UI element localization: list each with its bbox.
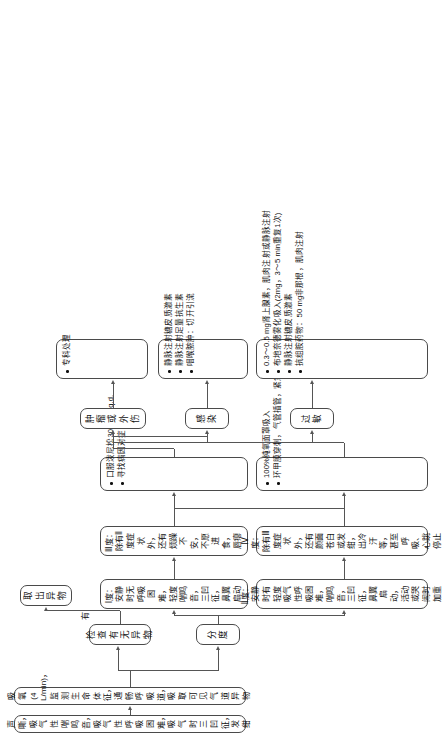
arrow-checkfb-to-remove: [44, 607, 48, 611]
arrow-initial-to-grading: [216, 646, 220, 650]
edge-initial-to-checkfb: [118, 650, 119, 671]
node-check-foreign-body: 检查有无异物: [89, 624, 151, 645]
arrow-bus-to-infection: [205, 430, 209, 434]
node-grade-4-label: Ⅳ度：除有Ⅲ度症状外，还有颜面苍白或发绀，出冷汗等，甚至呼吸、心跳停止: [241, 530, 444, 552]
arrow-grade1-to-grade3: [172, 557, 176, 561]
node-cause-allergy-label: 过敏: [301, 412, 324, 425]
edge-allergy-to-treatment: [312, 384, 313, 408]
edge-infection-to-treatment: [207, 384, 208, 408]
treatment-infection-item-0: 静脉注射糖皮质激素: [164, 293, 173, 374]
treatment-allergy-item-3: 抗组胺药物：50 mg非那根，肌肉注射: [295, 231, 304, 374]
edge-initial-split-vert: [118, 670, 218, 671]
treatment-specialist-item-0: 专科处理: [62, 334, 71, 374]
node-grade-3-label: Ⅲ度：除有Ⅱ度症状外，还有烦躁不安，不愿进食，唇瘪: [105, 530, 244, 552]
edge-severe-join: [174, 508, 344, 509]
edge-cause-bus-c: [113, 436, 207, 437]
edge-cause-bus-a: [113, 448, 174, 449]
arrow-join-to-severe: [342, 492, 346, 496]
node-grading: 分度: [196, 624, 240, 645]
edge-severe-to-causes: [344, 443, 345, 457]
arrow-bus-to-allergy: [310, 430, 314, 434]
node-treatment-allergy: 0.3～0.5 mg肾上腺素，肌肉注射或静脉注射 布地奈德雾化吸入(2mg，3～…: [256, 339, 428, 379]
node-treatment-mild: 口服泼尼松30 mg，q.d. 寻找病因对症治疗: [100, 457, 248, 491]
treatment-infection-item-1: 静脉注射足量抗生素: [175, 293, 184, 374]
arrow-initial-to-checkfb: [116, 646, 120, 650]
arrow-grade2-to-grade4: [342, 557, 346, 561]
edge-grade4-to-join: [344, 509, 345, 526]
diagram-root: 声嘶，吸气性喘鸣音，吸气性呼吸困难，吸气时三凹征，发绀 吸氧(4 L/min)，…: [0, 0, 445, 739]
arrow-grading-to-grade2: [342, 610, 346, 614]
edge-join-to-severe: [344, 496, 345, 509]
node-grading-label: 分度: [207, 628, 230, 641]
edge-grade1-to-mild: [174, 496, 175, 526]
node-grade-1: Ⅰ度：安静时无呼吸困难，轻度喘鸣音，三凹征，鼻翼扇动: [100, 579, 248, 609]
node-initial-care: 吸氧(4 L/min)，监测生命体征，通畅呼吸道，吸取可见气道异物: [14, 687, 246, 705]
edge-tumor-to-treatment: [113, 384, 114, 408]
edge-grading-out: [218, 616, 219, 624]
edge-checkfb-out: [120, 611, 121, 624]
node-grade-4: Ⅳ度：除有Ⅲ度症状外，还有颜面苍白或发绀，出冷汗等，甚至呼吸、心跳停止: [256, 526, 428, 556]
edge-bus-to-infection: [207, 434, 208, 443]
node-treatment-severe: 100%纯氧面罩吸入 环甲膜穿刺，气管插管，紧急气管切开: [256, 457, 428, 491]
edge-initial-split-stem: [130, 671, 131, 687]
node-cause-tumor-trauma-label: 肿瘤或外伤: [85, 412, 142, 425]
edge-bus-to-allergy: [312, 434, 313, 443]
treatment-infection-item-2: 咽喉脓肿：切开引流: [186, 293, 195, 374]
node-initial-care-label: 吸氧(4 L/min)，监测生命体征，通畅呼吸道，吸取可见气道异物: [7, 691, 252, 701]
flowchart-canvas: 声嘶，吸气性喘鸣音，吸气性呼吸困难，吸气时三凹征，发绀 吸氧(4 L/min)，…: [0, 0, 445, 739]
node-cause-tumor-trauma: 肿瘤或外伤: [80, 408, 146, 429]
arrow-grade1-to-mild: [172, 492, 176, 496]
arrow-symptoms-to-initial: [128, 706, 132, 710]
treatment-allergy-item-0: 0.3～0.5 mg肾上腺素，肌肉注射或静脉注射: [262, 210, 271, 374]
arrow-tumor-to-treatment: [111, 380, 115, 384]
node-grade-3: Ⅲ度：除有Ⅱ度症状外，还有烦躁不安，不愿进食，唇瘪: [100, 526, 248, 556]
node-remove-foreign-body: 取出异物: [20, 585, 72, 606]
node-remove-foreign-body-label: 取出异物: [23, 589, 68, 602]
edge-label-has-foreign-body: 有: [78, 611, 90, 621]
node-grade-2: Ⅱ度：安静时有轻度吸气性呼吸困难，喘鸣音，三凹征，鼻翼扇动，活动或哭闹时加重: [256, 579, 428, 609]
arrow-infection-to-treatment: [205, 380, 209, 384]
edge-mild-to-causes: [174, 449, 175, 457]
arrow-allergy-to-treatment: [310, 380, 314, 384]
treatment-severe-item-0: 100%纯氧面罩吸入: [262, 410, 271, 486]
edge-initial-to-grading: [218, 650, 219, 671]
node-cause-infection-label: 感染: [196, 412, 219, 425]
node-check-foreign-body-label: 检查有无异物: [86, 628, 154, 641]
node-treatment-infection: 静脉注射糖皮质激素 静脉注射足量抗生素 咽喉脓肿：切开引流: [158, 339, 248, 379]
arrow-grading-to-grade1: [172, 610, 176, 614]
treatment-allergy-item-1: 布地奈德雾化吸入(2mg，3～5 min重复1次): [273, 213, 282, 374]
edge-grade2-to-grade4: [344, 561, 345, 579]
edge-cause-bus-b: [113, 442, 344, 443]
node-treatment-specialist: 专科处理: [56, 339, 148, 379]
treatment-allergy-item-2: 静脉注射糖皮质激素: [284, 293, 293, 374]
arrow-bus-to-tumor: [111, 430, 115, 434]
node-cause-allergy: 过敏: [290, 408, 334, 429]
edge-grading-fan: [174, 615, 344, 616]
node-symptoms: 声嘶，吸气性喘鸣音，吸气性呼吸困难，吸气时三凹征，发绀: [14, 715, 246, 733]
node-symptoms-label: 声嘶，吸气性喘鸣音，吸气性呼吸困难，吸气时三凹征，发绀: [7, 719, 252, 729]
node-grade-1-label: Ⅰ度：安静时无呼吸困难，轻度喘鸣音，三凹征，鼻翼扇动: [105, 583, 244, 605]
edge-grade1-to-grade3: [174, 561, 175, 579]
edge-symptoms-to-initial: [130, 710, 131, 715]
node-grade-2-label: Ⅱ度：安静时有轻度吸气性呼吸困难，喘鸣音，三凹征，鼻翼扇动，活动或哭闹时加重: [241, 583, 444, 605]
node-cause-infection: 感染: [185, 408, 229, 429]
